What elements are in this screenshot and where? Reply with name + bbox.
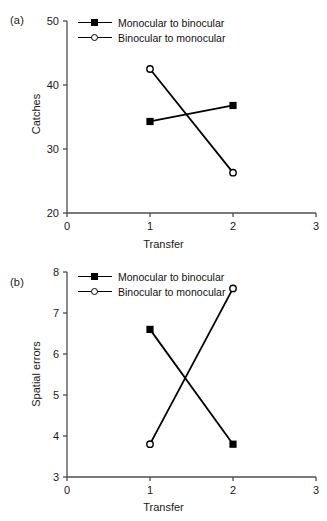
svg-text:8: 8 <box>53 266 59 278</box>
svg-text:30: 30 <box>47 143 59 155</box>
svg-text:7: 7 <box>53 307 59 319</box>
x-axis-title-a: Transfer <box>0 238 327 250</box>
svg-text:4: 4 <box>53 430 59 442</box>
svg-text:3: 3 <box>53 471 59 483</box>
svg-text:2: 2 <box>230 220 236 232</box>
svg-text:1: 1 <box>147 220 153 232</box>
svg-text:50: 50 <box>47 15 59 27</box>
plot-area-b: 3456780123 <box>0 258 327 521</box>
svg-text:2: 2 <box>230 484 236 496</box>
svg-text:6: 6 <box>53 348 59 360</box>
svg-text:0: 0 <box>64 484 70 496</box>
svg-text:3: 3 <box>313 220 319 232</box>
svg-text:20: 20 <box>47 207 59 219</box>
chart-panel-a: (a) Monocular to binocular Binocular to … <box>0 0 327 258</box>
svg-text:3: 3 <box>313 484 319 496</box>
y-axis-title-a: Catches <box>30 74 42 154</box>
y-axis-title-b: Spatial errors <box>30 319 42 429</box>
chart-panel-b: (b) Monocular to binocular Binocular to … <box>0 258 327 521</box>
svg-text:0: 0 <box>64 220 70 232</box>
x-axis-title-b: Transfer <box>0 501 327 513</box>
svg-text:1: 1 <box>147 484 153 496</box>
svg-text:5: 5 <box>53 389 59 401</box>
plot-area-a: 203040500123 <box>0 0 327 258</box>
svg-text:40: 40 <box>47 79 59 91</box>
